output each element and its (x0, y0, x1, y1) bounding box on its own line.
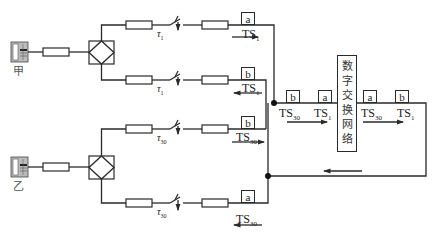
time-slot-label: TS30 (236, 213, 257, 228)
time-slot-label: TS30 (279, 107, 300, 122)
time-slot-cell: b (241, 116, 255, 129)
time-slot-label: TS30 (236, 131, 257, 146)
time-slot-cell: a (363, 90, 377, 103)
time-slot-label: TS30 (361, 107, 382, 122)
junction-dot (265, 173, 271, 179)
hybrid-icon (89, 41, 114, 64)
time-slot-label: TS1 (314, 107, 332, 122)
time-slot-cell: a (241, 12, 255, 25)
junction-dot (271, 100, 277, 106)
time-slot-label: TS1 (397, 107, 415, 122)
digital-switching-network: 数字交换网络 (337, 55, 357, 152)
time-slot-cell: b (286, 90, 300, 103)
time-slot-label: TS1 (242, 28, 260, 43)
delay-label: τ30 (157, 133, 167, 145)
delay-label: τ1 (157, 29, 164, 41)
telephone-icon (11, 157, 28, 177)
delay-label: τ30 (157, 207, 167, 219)
hybrid-icon (89, 156, 114, 179)
time-slot-cell: a (241, 190, 255, 203)
time-slot-cell: b (395, 90, 409, 103)
telephone-icon (11, 42, 28, 62)
phone-label-yi: 乙 (13, 181, 24, 192)
phone-label-jia: 甲 (13, 66, 24, 77)
time-slot-cell: a (318, 90, 332, 103)
delay-label: τ1 (157, 84, 164, 96)
time-slot-cell: b (241, 67, 255, 80)
line-circuit-box (43, 48, 69, 56)
time-slot-label: TS1 (242, 82, 260, 97)
